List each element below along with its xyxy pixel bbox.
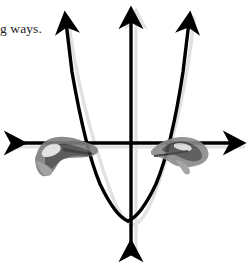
smudge-left-shape <box>33 128 101 180</box>
parabola-left-branch <box>66 22 128 221</box>
smudge-right-shape <box>148 127 216 177</box>
smudge-right <box>148 127 216 177</box>
parabola-curve <box>66 22 189 221</box>
figure-root: g ways. <box>0 0 251 262</box>
smudge-left <box>33 128 101 180</box>
